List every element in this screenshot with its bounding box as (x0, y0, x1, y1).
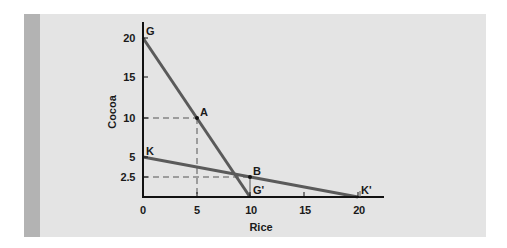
y-tick-label-15: 15 (123, 71, 135, 83)
label-b: B (253, 165, 261, 177)
label-g-prime: G' (253, 184, 265, 196)
guide-lines (143, 118, 250, 197)
y-tick-label-5: 5 (129, 151, 135, 163)
x-tick-label-5: 5 (194, 204, 200, 216)
x-tick-label-0: 0 (140, 204, 146, 216)
x-tick-label-20: 20 (353, 204, 365, 216)
label-a: A (200, 106, 208, 118)
label-k: K (146, 145, 154, 157)
x-axis-title: Rice (249, 221, 272, 233)
ppf-chart: 20 15 10 5 2.5 0 5 10 15 20 Rice Cocoa G… (0, 0, 507, 248)
label-k-prime: K' (361, 184, 372, 196)
point-a (195, 116, 199, 120)
label-g: G (146, 25, 155, 37)
y-tick-label-10: 10 (123, 112, 135, 124)
x-tick-label-15: 15 (299, 204, 311, 216)
y-tick-label-2-5: 2.5 (121, 171, 136, 183)
x-tick-label-10: 10 (245, 204, 257, 216)
y-axis-title: Cocoa (106, 94, 118, 129)
point-b (248, 175, 252, 179)
y-tick-label-20: 20 (123, 32, 135, 44)
